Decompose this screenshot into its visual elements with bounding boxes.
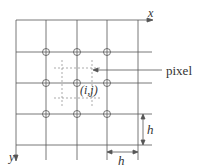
pixel-pointer-arrow: [93, 68, 162, 72]
h-label-horizontal: h: [118, 154, 125, 167]
h-dimension-vertical: [141, 114, 145, 145]
h-label-vertical: h: [147, 123, 154, 136]
y-axis-label: y: [9, 151, 14, 163]
center-label: (i,j): [80, 84, 98, 96]
y-axis-arrow: [14, 155, 18, 161]
x-axis-label: x: [148, 7, 153, 19]
pixel-label: pixel: [166, 64, 192, 77]
pixel-grid-diagram: [0, 0, 197, 168]
